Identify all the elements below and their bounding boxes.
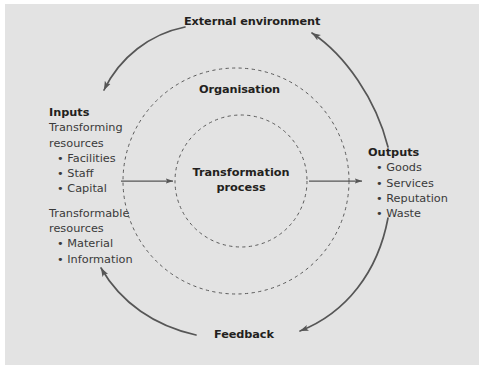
external-environment-label: External environment [184,15,320,29]
outputs-heading: Outputs [368,145,448,160]
inputs-list-item: • Facilities [49,151,133,166]
outputs-list-item: • Reputation [368,191,448,206]
bullet-icon: • [376,161,383,174]
inputs-item-label: Capital [67,182,107,195]
inputs-list-item: • Information [49,252,133,267]
inputs-group2-line-1: Transformable [49,206,133,221]
outputs-item-label: Services [386,177,434,190]
inputs-group1-line-1: Transforming [49,120,133,135]
outputs-list-item: • Services [368,176,448,191]
inputs-group-spacer [49,197,133,206]
outputs-item-label: Waste [386,207,421,220]
inputs-list-item: • Staff [49,166,133,181]
inputs-group2-line-2: resources [49,221,133,236]
bullet-icon: • [57,182,64,195]
bullet-icon: • [376,192,383,205]
bullet-icon: • [376,207,383,220]
diagram-canvas: External environment Organisation Feedba… [0,0,485,365]
bullet-icon: • [57,253,64,266]
bullet-icon: • [57,167,64,180]
bullet-icon: • [57,152,64,165]
organisation-label: Organisation [199,83,280,97]
outputs-block: Outputs • Goods • Services • Reputation … [368,145,448,221]
transformation-process-label: Transformation process [186,166,296,196]
inputs-list-item: • Capital [49,181,133,196]
bullet-icon: • [376,177,383,190]
inputs-block: Inputs Transforming resources • Faciliti… [49,105,133,267]
inputs-group1-line-2: resources [49,136,133,151]
inputs-list-item: • Material [49,236,133,251]
outputs-list-item: • Waste [368,206,448,221]
inputs-item-label: Facilities [67,152,115,165]
inputs-item-label: Material [67,237,113,250]
bullet-icon: • [57,237,64,250]
transformation-process-line-1: Transformation [186,166,296,181]
inputs-item-label: Information [67,253,132,266]
outputs-item-label: Goods [386,161,422,174]
inputs-item-label: Staff [67,167,93,180]
transformation-process-line-2: process [186,181,296,196]
inputs-heading: Inputs [49,105,133,120]
feedback-label: Feedback [214,328,274,342]
outputs-list-item: • Goods [368,160,448,175]
outputs-item-label: Reputation [386,192,448,205]
